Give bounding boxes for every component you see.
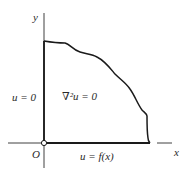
origin-marker bbox=[41, 140, 46, 145]
bottom-boundary-condition: u = f(x) bbox=[80, 150, 114, 162]
origin-label: O bbox=[32, 148, 40, 160]
left-boundary-condition: u = 0 bbox=[12, 91, 36, 103]
region-equation: ∇²u = 0 bbox=[62, 90, 97, 102]
x-axis-label: x bbox=[174, 146, 179, 158]
region-curved-boundary bbox=[44, 41, 150, 143]
y-axis-label: y bbox=[33, 11, 38, 23]
